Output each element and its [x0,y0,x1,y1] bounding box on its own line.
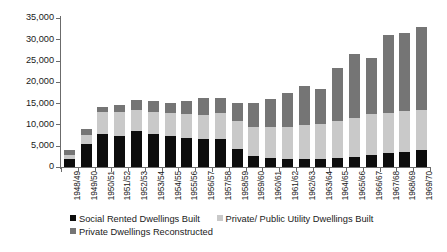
legend-swatch-icon-private-reconstructed [70,228,76,234]
x-axis-category-label: 1951/52 [123,171,131,200]
legend-item-private-public-utility[interactable]: Private/ Public Utility Dwellings Built [217,212,374,225]
x-axis-tick [313,168,314,172]
x-axis-tick [78,168,79,172]
x-axis-tick [246,168,247,172]
chart-legend: Social Rented Dwellings Built Private/ P… [70,212,440,238]
y-axis-tick [56,124,61,125]
x-axis-tick [346,168,347,172]
x-axis-tick [430,168,431,172]
x-axis-category-label: 1949/50 [90,171,98,200]
x-axis-tick [162,168,163,172]
x-axis-tick [329,168,330,172]
x-axis-category-label: 1969/70 [425,171,433,200]
x-axis-category-label: 1955/56 [190,171,198,200]
legend-label-social-rented: Social Rented Dwellings Built [79,213,200,225]
legend-swatch-icon-social-rented [70,215,76,221]
x-axis-category-label: 1953/54 [157,171,165,200]
y-axis-tick [56,82,61,83]
x-axis-tick [195,168,196,172]
x-axis-tick [296,168,297,172]
x-axis-category-label: 1956/57 [207,171,215,200]
x-axis-category-label: 1960/61 [274,171,282,200]
x-axis-tick [229,168,230,172]
x-axis-tick [363,168,364,172]
x-axis-tick [262,168,263,172]
x-axis-category-label: 1958/59 [241,171,249,200]
x-axis-tick [413,168,414,172]
x-axis-tick [396,168,397,172]
x-axis-tick [178,168,179,172]
x-axis-category-label: 1963/64 [325,171,333,200]
legend-label-private-reconstructed: Private Dwellings Reconstructed [79,226,213,238]
y-axis-tick [56,146,61,147]
y-axis-tick [56,61,61,62]
x-axis-category-label: 1961/62 [291,171,299,200]
x-axis-category-label: 1968/69 [408,171,416,200]
x-axis-category-label: 1966/67 [375,171,383,200]
x-axis-category-label: 1965/66 [358,171,366,200]
x-axis-category-label: 1954/55 [174,171,182,200]
x-axis-category-label: 1962/63 [308,171,316,200]
x-axis-tick [279,168,280,172]
y-axis-tick [56,18,61,19]
legend-row-2: Private Dwellings Reconstructed [70,225,440,238]
legend-item-social-rented[interactable]: Social Rented Dwellings Built [70,212,200,225]
bar-chart: 35,00030,00025,00020,00015,00010,0005,00… [0,0,447,252]
x-axis-category-label: 1957/58 [224,171,232,200]
x-axis-category-label: 1964/65 [341,171,349,200]
x-axis-category-label: 1959/60 [257,171,265,200]
x-axis-category-label: 1948/49 [73,171,81,200]
legend-swatch-icon-private-public-utility [217,215,223,221]
x-axis-tick [111,168,112,172]
x-axis-category-label: 1952/53 [140,171,148,200]
x-axis-tick [128,168,129,172]
y-axis-tick [56,39,61,40]
x-axis-tick [145,168,146,172]
legend-row-1: Social Rented Dwellings Built Private/ P… [70,212,440,225]
x-axis-category-label: 1950/51 [107,171,115,200]
legend-label-private-public-utility: Private/ Public Utility Dwellings Built [226,213,374,225]
x-axis-tick [61,168,62,172]
x-axis-tick [212,168,213,172]
x-axis-tick [95,168,96,172]
legend-item-private-reconstructed[interactable]: Private Dwellings Reconstructed [70,225,213,238]
y-axis-tick [56,103,61,104]
x-axis-category-label: 1967/68 [392,171,400,200]
x-axis-tick [380,168,381,172]
